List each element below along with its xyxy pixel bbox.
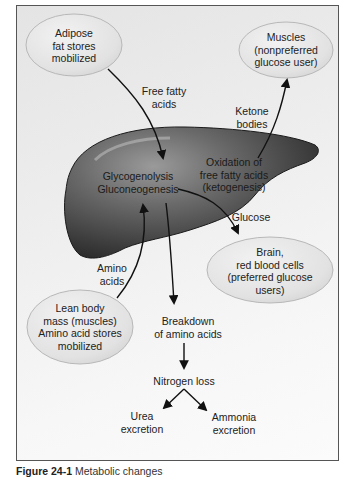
ffa-line1: Free fatty xyxy=(132,85,196,98)
breakdown-line1: Breakdown xyxy=(148,315,228,328)
ffa-label: Free fatty acids xyxy=(132,85,196,110)
caption-text: Metabolic changes xyxy=(75,465,163,477)
brain-line1: Brain, xyxy=(212,246,328,259)
adipose-label: Adipose fat stores mobilized xyxy=(34,27,114,65)
oxidation-line2: free fatty acids xyxy=(184,169,284,182)
amino-line2: acids xyxy=(92,275,132,288)
muscles-line3: glucose user) xyxy=(240,56,332,69)
lean-line3: Amino acid stores xyxy=(32,327,128,340)
glycogenolysis-text: Glycogenolysis xyxy=(88,170,188,183)
figure-caption: Figure 24-1 Metabolic changes xyxy=(16,465,163,477)
breakdown-label: Breakdown of amino acids xyxy=(148,315,228,340)
ammonia-line2: excretion xyxy=(206,424,262,437)
arrow-urea xyxy=(164,389,184,408)
oxidation-line3: (ketogenesis) xyxy=(184,181,284,194)
breakdown-line2: of amino acids xyxy=(148,328,228,341)
brain-line4: users) xyxy=(212,284,328,297)
ammonia-line1: Ammonia xyxy=(206,411,262,424)
lean-mass-label: Lean body mass (muscles) Amino acid stor… xyxy=(32,302,128,352)
urea-label: Urea excretion xyxy=(116,410,168,435)
figure-number: Figure 24-1 xyxy=(16,465,72,477)
brain-label: Brain, red blood cells (preferred glucos… xyxy=(212,246,328,296)
ffa-line2: acids xyxy=(132,98,196,111)
urea-line2: excretion xyxy=(116,423,168,436)
urea-line1: Urea xyxy=(116,410,168,423)
glucose-label: Glucose xyxy=(226,211,276,224)
ketone-line2: bodies xyxy=(228,118,276,131)
amino-label: Amino acids xyxy=(92,262,132,287)
lean-line2: mass (muscles) xyxy=(32,315,128,328)
lean-line4: mobilized xyxy=(32,340,128,353)
gluconeogenesis-text: Gluconeogenesis xyxy=(88,183,188,196)
ammonia-label: Ammonia excretion xyxy=(206,411,262,436)
nitrogen-label: Nitrogen loss xyxy=(144,375,224,388)
ketone-line1: Ketone xyxy=(228,105,276,118)
muscles-line2: (nonpreferred xyxy=(240,44,332,57)
liver-right-label: Oxidation of free fatty acids (ketogenes… xyxy=(184,156,284,194)
lean-line1: Lean body xyxy=(32,302,128,315)
brain-line3: (preferred glucose xyxy=(212,271,328,284)
muscles-label: Muscles (nonpreferred glucose user) xyxy=(240,31,332,69)
liver-left-label: Glycogenolysis Gluconeogenesis xyxy=(88,170,188,195)
adipose-line2: fat stores xyxy=(34,40,114,53)
arrow-ammonia xyxy=(184,389,206,410)
ketone-label: Ketone bodies xyxy=(228,105,276,130)
brain-line2: red blood cells xyxy=(212,259,328,272)
muscles-line1: Muscles xyxy=(240,31,332,44)
oxidation-line1: Oxidation of xyxy=(184,156,284,169)
adipose-line1: Adipose xyxy=(34,27,114,40)
amino-line1: Amino xyxy=(92,262,132,275)
adipose-line3: mobilized xyxy=(34,52,114,65)
